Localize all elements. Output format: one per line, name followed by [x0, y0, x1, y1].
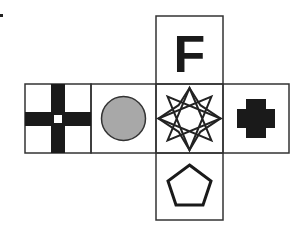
pentagon-icon — [168, 165, 211, 205]
face-bottom — [156, 153, 223, 220]
cube-net-diagram: F — [0, 0, 301, 236]
letter-f: F — [174, 25, 206, 83]
plus-cross-icon — [237, 99, 275, 138]
circle-icon — [102, 97, 146, 141]
window-cross-icon — [25, 84, 91, 153]
